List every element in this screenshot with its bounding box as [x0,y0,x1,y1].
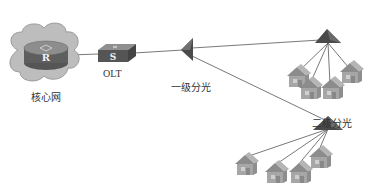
router-icon: R [24,41,68,70]
house-icon [289,160,313,183]
splitter-level1-label: 一级分光 [171,83,211,93]
svg-text:S: S [110,52,117,62]
homes-group-top [287,60,364,99]
splitter-level2-top-icon [315,29,341,43]
house-icon [321,76,345,99]
splitter-level2-label: 二级分光 [312,119,352,129]
splitter-level1-icon [181,38,193,61]
olt-label: OLT [103,69,122,79]
house-icon [309,145,333,168]
homes-group-bottom [235,145,333,183]
svg-text:R: R [42,52,51,63]
core-network-label: 核心网 [31,93,61,103]
pon-topology-diagram: R S [0,0,370,191]
olt-switch-icon: S [98,44,136,62]
house-icon [235,152,259,175]
house-icon [340,60,364,83]
house-icon [265,160,289,183]
